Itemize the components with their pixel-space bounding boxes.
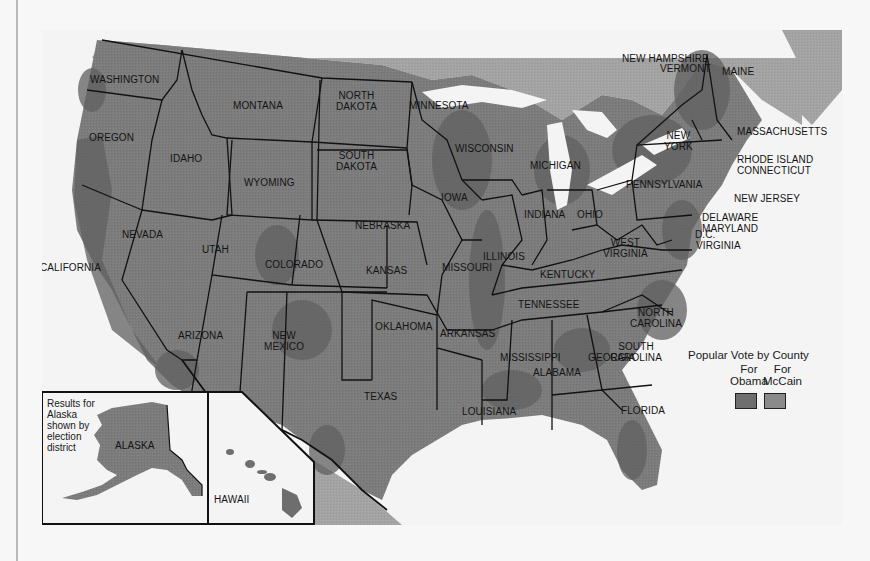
state-label-dc: D.C. [695,229,715,240]
state-label-arizona: ARIZONA [178,330,223,341]
legend-swatch-mccain [764,393,786,409]
state-label-colorado: COLORADO [265,259,323,270]
state-label-new-york: NEW YORK [664,130,693,152]
state-label-ohio: OHIO [577,209,603,220]
legend-item-mccain: For McCain [763,363,802,387]
state-label-kentucky: KENTUCKY [540,269,595,280]
state-label-missouri: MISSOURI [442,262,492,273]
state-label-idaho: IDAHO [170,153,202,164]
state-label-indiana: INDIANA [524,209,565,220]
state-label-delaware: DELAWARE [702,212,758,223]
state-label-minnesota: MINNESOTA [409,100,469,111]
state-label-mississippi: MISSISSIPPI [500,352,561,363]
state-label-pennsylvania: PENNSYLVANIA [626,179,702,190]
state-label-utah: UTAH [202,244,229,255]
us-county-vote-map: WASHINGTON OREGON IDAHO MONTANA WYOMING … [42,30,842,525]
state-label-nebraska: NEBRASKA [355,220,410,231]
state-label-kansas: KANSAS [366,265,407,276]
state-label-virginia: VIRGINIA [696,240,741,251]
state-label-florida: FLORIDA [621,405,665,416]
state-label-michigan: MICHIGAN [530,160,581,171]
state-label-rhode-island: RHODE ISLAND [737,154,813,165]
state-label-nevada: NEVADA [122,229,163,240]
state-label-west-virginia: WEST VIRGINIA [603,237,648,259]
state-label-new-mexico: NEW MEXICO [264,330,304,352]
state-label-tennessee: TENNESSEE [518,299,579,310]
state-label-iowa: IOWA [441,192,468,203]
state-label-washington: WASHINGTON [90,74,159,85]
legend-swatch-obama [735,393,757,409]
state-label-wisconsin: WISCONSIN [455,143,514,154]
alaska-inset-note: Results for Alaska shown by election dis… [47,398,95,453]
state-label-oregon: OREGON [89,132,134,143]
state-label-maine: MAINE [722,66,754,77]
state-label-massachusetts: MASSACHUSETTS [737,126,827,137]
page: WASHINGTON OREGON IDAHO MONTANA WYOMING … [0,0,870,561]
state-label-alabama: ALABAMA [533,367,581,378]
state-label-texas: TEXAS [364,391,397,402]
alaska-label: ALASKA [115,440,155,451]
state-label-connecticut: CONNECTICUT [737,165,811,176]
state-label-oklahoma: OKLAHOMA [375,321,432,332]
state-label-illinois: ILLINOIS [483,251,525,262]
state-label-louisiana: LOUISIANA [462,406,516,417]
state-label-north-carolina: NORTH CAROLINA [630,307,682,329]
state-label-new-jersey: NEW JERSEY [734,193,800,204]
page-left-rule [16,0,18,561]
state-label-north-dakota: NORTH DAKOTA [336,90,377,112]
state-label-vermont: VERMONT [660,63,711,74]
state-label-california: CALIFORNIA [42,262,101,273]
state-label-montana: MONTANA [233,100,283,111]
state-label-south-dakota: SOUTH DAKOTA [336,150,377,172]
hawaii-label: HAWAII [214,494,249,505]
state-label-georgia: GEORGIA [588,352,635,363]
legend-title: Popular Vote by County [688,349,809,361]
state-label-wyoming: WYOMING [244,177,295,188]
state-label-arkansas: ARKANSAS [440,328,495,339]
